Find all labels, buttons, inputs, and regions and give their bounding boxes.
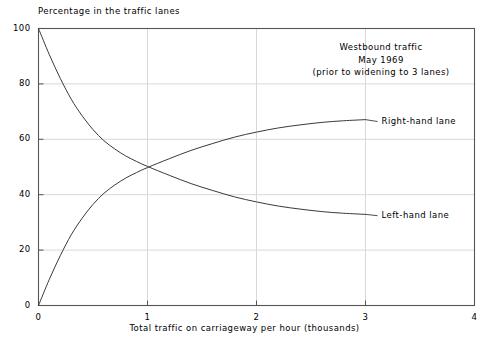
chart-annotation: Westbound trafficMay 1969(prior to widen… [288, 41, 474, 79]
x-axis-title: Total traffic on carriageway per hour (t… [0, 323, 489, 333]
y-tick-label: 20 [1, 244, 31, 254]
y-tick-label: 0 [1, 300, 31, 310]
series-label-2: Left-hand lane [382, 210, 450, 220]
x-tick-label: 2 [242, 312, 272, 322]
x-tick-label: 1 [133, 312, 163, 322]
y-tick-label: 60 [1, 133, 31, 143]
leader-line-1 [366, 120, 378, 122]
traffic-lane-percentage-chart: Percentage in the traffic lanes 02040608… [0, 0, 489, 345]
y-tick-label: 40 [1, 189, 31, 199]
x-tick-label: 4 [460, 312, 489, 322]
annotation-line-3: (prior to widening to 3 lanes) [288, 66, 474, 79]
series-label-1: Right-hand lane [382, 116, 456, 126]
leader-line-2 [366, 214, 378, 215]
data-curve-1 [39, 120, 366, 306]
y-tick-label: 80 [1, 78, 31, 88]
annotation-line-2: May 1969 [288, 54, 474, 67]
y-tick-label: 100 [1, 23, 31, 33]
annotation-line-1: Westbound traffic [288, 41, 474, 54]
x-tick-label: 3 [351, 312, 381, 322]
x-tick-label: 0 [24, 312, 54, 322]
